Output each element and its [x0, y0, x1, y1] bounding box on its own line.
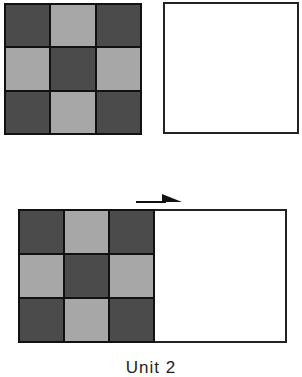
light-cell: [97, 48, 140, 89]
light-cell: [110, 255, 153, 297]
light-cell: [51, 92, 94, 133]
top-checker-grid: [4, 3, 142, 135]
dark-cell: [20, 211, 63, 253]
dark-cell: [110, 211, 153, 253]
light-cell: [65, 299, 108, 341]
dark-cell: [6, 92, 49, 133]
dark-cell: [6, 5, 49, 46]
dark-cell: [65, 255, 108, 297]
right-arrow-icon: [134, 192, 184, 208]
dark-cell: [97, 92, 140, 133]
dark-cell: [97, 5, 140, 46]
top-blank-square: [163, 2, 299, 134]
light-cell: [51, 5, 94, 46]
light-cell: [65, 211, 108, 253]
dark-cell: [51, 48, 94, 89]
dark-cell: [20, 299, 63, 341]
light-cell: [20, 255, 63, 297]
dark-cell: [110, 299, 153, 341]
bottom-checker-grid: [18, 209, 155, 343]
caption: Unit 2: [0, 358, 302, 377]
light-cell: [6, 48, 49, 89]
